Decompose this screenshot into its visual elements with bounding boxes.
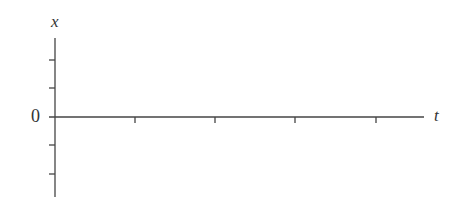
y-axis-label: x bbox=[51, 12, 59, 32]
origin-label: 0 bbox=[31, 106, 40, 127]
axes-svg bbox=[0, 0, 465, 209]
axes-diagram: x t 0 bbox=[0, 0, 465, 209]
x-axis-label: t bbox=[434, 106, 439, 126]
